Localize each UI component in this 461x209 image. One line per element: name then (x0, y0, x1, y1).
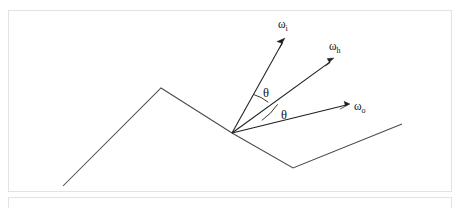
figure-root: ωi ωh ωo θ θ (0, 0, 461, 208)
omega-o-subscript: o (362, 106, 366, 115)
lower-frame (9, 198, 452, 209)
omega-h-subscript: h (337, 46, 341, 55)
main-frame (9, 11, 452, 192)
theta-lower-label: θ (281, 108, 287, 122)
reflection-diagram: ωi ωh ωo θ θ (0, 0, 461, 208)
theta-upper-label: θ (263, 86, 269, 100)
